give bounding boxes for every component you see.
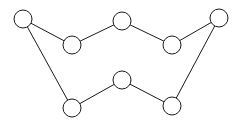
node-layer — [14, 9, 228, 117]
graph-edge-n7-n8 — [80, 84, 114, 103]
graph-node-n1 — [14, 10, 32, 28]
graph-node-n2 — [63, 36, 81, 54]
graph-edge-n6-n7 — [130, 84, 164, 102]
graph-node-n8 — [63, 99, 81, 117]
graph-figure — [0, 0, 242, 125]
graph-edge-n1-n2 — [31, 23, 64, 41]
graph-edge-n4-n5 — [180, 22, 211, 40]
graph-node-n3 — [113, 12, 131, 30]
graph-edge-n5-n6 — [176, 26, 215, 98]
graph-canvas — [0, 0, 242, 125]
graph-edge-n3-n4 — [130, 25, 164, 41]
edge-layer — [27, 22, 214, 103]
graph-edge-n8-n1 — [27, 27, 67, 100]
graph-node-n6 — [163, 97, 181, 115]
graph-node-n7 — [113, 71, 131, 89]
graph-node-n5 — [210, 9, 228, 27]
graph-node-n4 — [163, 36, 181, 54]
graph-edge-n2-n3 — [80, 25, 114, 41]
